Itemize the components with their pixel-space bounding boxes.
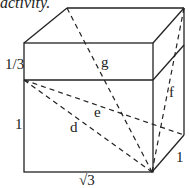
- diagonal-f: [152, 8, 184, 172]
- label-width: √3: [79, 173, 95, 188]
- top-left-edge: [24, 8, 67, 43]
- diagonal-d: [24, 80, 152, 172]
- label-height: 1: [15, 117, 23, 132]
- diagonal-g: [67, 8, 152, 172]
- label-depth: 1: [176, 150, 184, 165]
- label-e: e: [94, 105, 101, 120]
- label-one-third: 1/3: [5, 57, 24, 72]
- box-diagram: [0, 0, 190, 188]
- front-face: [24, 43, 153, 172]
- diagonal-e: [24, 80, 184, 135]
- top-right-edge: [153, 8, 184, 43]
- label-f: f: [169, 85, 174, 100]
- label-d: d: [70, 120, 78, 135]
- divider-side: [153, 45, 184, 80]
- label-g: g: [101, 55, 109, 70]
